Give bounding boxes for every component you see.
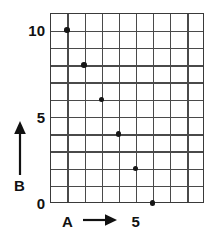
gridline-horizontal — [51, 169, 203, 170]
gridline-horizontal — [51, 151, 203, 152]
y-axis-tick-label-0: 0 — [37, 196, 45, 211]
y-axis-tick-label-5: 5 — [37, 109, 45, 124]
gridline-vertical — [136, 14, 137, 202]
y-axis-tick-label-10: 10 — [28, 23, 45, 38]
gridline-horizontal — [51, 186, 203, 187]
y-axis-name-label: B — [14, 178, 25, 193]
gridline-vertical — [170, 14, 171, 202]
gridline-horizontal — [51, 31, 203, 32]
data-point — [64, 27, 70, 33]
data-point — [150, 200, 156, 206]
gridline-vertical — [102, 14, 103, 202]
x-axis-name-label: A — [62, 214, 73, 229]
gridline-vertical — [67, 14, 68, 202]
arrow-up-icon — [13, 121, 27, 175]
data-point — [81, 62, 87, 68]
arrow-right-icon — [83, 213, 117, 227]
gridline-horizontal — [51, 48, 203, 49]
x-axis-tick-label-5: 5 — [131, 214, 139, 229]
gridline-horizontal — [51, 65, 203, 66]
scatter-plot-figure: 10 5 0 5 A B — [0, 0, 216, 235]
gridline-horizontal — [51, 100, 203, 101]
gridline-horizontal — [51, 134, 203, 135]
gridline-horizontal — [51, 82, 203, 83]
gridline-vertical — [119, 14, 120, 202]
gridline-vertical — [85, 14, 86, 202]
gridline-horizontal — [51, 117, 203, 118]
gridline-vertical — [153, 14, 154, 202]
data-point — [116, 131, 122, 137]
plot-area — [50, 13, 204, 203]
gridline-vertical — [187, 14, 188, 202]
